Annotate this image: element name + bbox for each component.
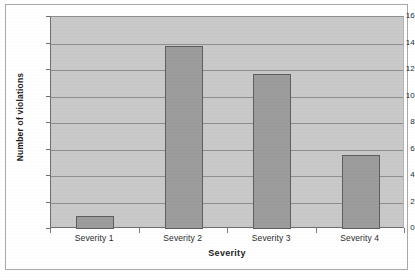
- bar: [342, 155, 380, 229]
- x-axis-title: Severity: [50, 248, 404, 258]
- x-axis-category-label: Severity 3: [227, 233, 316, 243]
- bar-chart-figure: Number of violations 1614121086420 Sever…: [0, 0, 415, 280]
- gridline: [51, 44, 403, 45]
- bar: [253, 74, 291, 229]
- gridline: [51, 70, 403, 71]
- plot-area: [50, 16, 404, 228]
- x-axis-tick-mark: [404, 228, 405, 233]
- x-axis-category-label: Severity 1: [50, 233, 139, 243]
- bar: [165, 46, 203, 229]
- y-axis-title: Number of violations: [15, 52, 25, 182]
- x-axis-category-label: Severity 4: [316, 233, 405, 243]
- gridline: [51, 97, 403, 98]
- x-axis-category-label: Severity 2: [139, 233, 228, 243]
- bar: [76, 216, 114, 229]
- gridline: [51, 150, 403, 151]
- gridline: [51, 123, 403, 124]
